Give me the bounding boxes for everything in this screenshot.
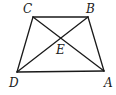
segment-ca xyxy=(33,17,104,71)
vertex-label-d: D xyxy=(8,76,19,90)
segment-ad xyxy=(17,71,104,72)
segment-ba xyxy=(88,17,104,71)
segment-bd xyxy=(17,17,88,72)
segment-dc xyxy=(17,17,33,72)
vertex-label-a: A xyxy=(103,76,113,90)
trapezoid-diagram: C B E D A xyxy=(0,0,116,95)
vertex-label-b: B xyxy=(85,2,95,16)
vertex-label-c: C xyxy=(23,2,32,16)
vertex-label-e: E xyxy=(55,43,65,57)
